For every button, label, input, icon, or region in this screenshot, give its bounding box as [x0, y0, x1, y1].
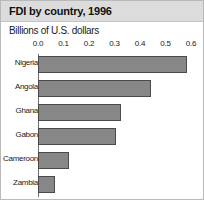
x-tick-label: 0.5: [160, 39, 171, 48]
category-label: Cameroon: [3, 154, 38, 163]
x-tick-label: 0.6: [186, 39, 197, 48]
bar: [38, 104, 121, 121]
category-label: Angola: [15, 82, 38, 91]
chart-subtitle: Billions of U.S. dollars: [9, 25, 99, 36]
x-tick-label: 0.3: [109, 39, 120, 48]
category-label: Nigeria: [15, 58, 38, 67]
bar-row: Nigeria: [1, 54, 204, 78]
bar: [38, 176, 55, 193]
bar: [38, 80, 151, 97]
bar-row: Zambia: [1, 174, 204, 198]
bar-row: Cameroon: [1, 150, 204, 174]
bar-rows: NigeriaAngolaGhanaGabonCameroonZambia: [1, 54, 204, 199]
x-tick-label: 0.1: [58, 39, 69, 48]
bar-row: Ghana: [1, 102, 204, 126]
x-tick-label: 0.4: [135, 39, 146, 48]
x-tick-label: 0.2: [84, 39, 95, 48]
bar-row: Gabon: [1, 126, 204, 150]
bar: [38, 56, 187, 73]
chart-figure: FDI by country, 1996 Billions of U.S. do…: [0, 0, 204, 200]
x-axis-tick-labels: 0.00.10.20.30.40.50.6: [1, 39, 204, 52]
bar-row: Angola: [1, 78, 204, 102]
bar: [38, 128, 116, 145]
category-label: Zambia: [13, 178, 38, 187]
plot-area: 0.00.10.20.30.40.50.6 NigeriaAngolaGhana…: [1, 39, 204, 199]
category-label: Gabon: [15, 130, 38, 139]
chart-title: FDI by country, 1996: [9, 5, 112, 17]
category-label: Ghana: [15, 106, 38, 115]
x-tick-label: 0.0: [33, 39, 44, 48]
bar: [38, 152, 69, 169]
